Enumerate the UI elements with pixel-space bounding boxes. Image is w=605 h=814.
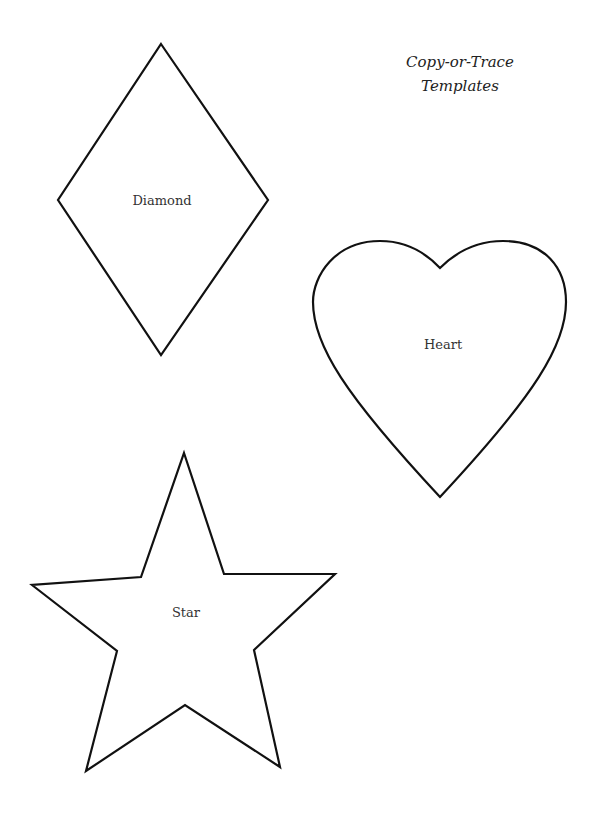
heart-shape bbox=[313, 241, 566, 497]
star-label: Star bbox=[172, 605, 200, 620]
shapes-canvas bbox=[0, 0, 605, 814]
diamond-label: Diamond bbox=[132, 193, 191, 208]
heart-label: Heart bbox=[424, 337, 462, 352]
template-page: Copy-or-Trace Templates Diamond Heart St… bbox=[0, 0, 605, 814]
